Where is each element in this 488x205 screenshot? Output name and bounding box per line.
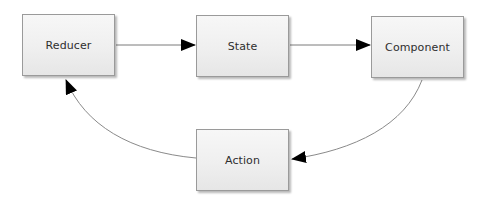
node-state-label: State (228, 40, 258, 53)
node-component-label: Component (385, 41, 450, 54)
node-action: Action (196, 129, 289, 191)
flux-cycle-diagram: Reducer State Component Action (0, 0, 488, 205)
node-reducer-label: Reducer (46, 39, 92, 52)
node-action-label: Action (225, 154, 260, 167)
edge-action-to-reducer (66, 80, 196, 158)
node-reducer: Reducer (22, 14, 115, 76)
node-state: State (196, 15, 289, 77)
node-component: Component (371, 16, 464, 78)
edge-component-to-action (292, 80, 422, 159)
